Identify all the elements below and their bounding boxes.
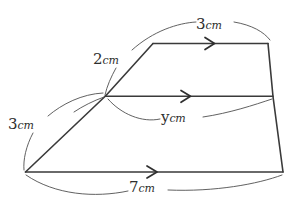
arc-middle-left bbox=[108, 99, 160, 120]
arc-left-slant-lower bbox=[24, 133, 33, 170]
arc-top-right bbox=[234, 22, 270, 40]
arc-middle-right bbox=[203, 99, 272, 117]
dimension-label-bottom-unit: cm bbox=[139, 182, 155, 195]
dimension-label-slant: 2cm bbox=[93, 51, 119, 67]
dimension-label-slant-value: 2 bbox=[93, 50, 103, 68]
dimension-label-left: 3cm bbox=[8, 116, 34, 132]
dimension-label-slant-unit: cm bbox=[103, 54, 119, 67]
dimension-label-top-value: 3 bbox=[196, 15, 206, 33]
dimension-label-middle: ycm bbox=[161, 109, 185, 125]
direction-arrowheads bbox=[147, 38, 215, 179]
arc-top-left bbox=[132, 22, 196, 50]
geometry-figure: 3cm 3cm 2cm ycm 7cm bbox=[0, 0, 306, 208]
dimension-label-top-unit: cm bbox=[206, 19, 222, 32]
dimension-label-left-value: 3 bbox=[8, 115, 18, 133]
dimension-label-top: 3cm bbox=[196, 16, 222, 32]
arc-left-slant-upper bbox=[48, 93, 103, 116]
dimension-label-bottom-value: 7 bbox=[129, 178, 139, 196]
dimension-label-left-unit: cm bbox=[18, 119, 34, 132]
dimension-label-bottom: 7cm bbox=[129, 179, 155, 195]
lower-left-slant-edge bbox=[26, 96, 106, 172]
arc-bottom-left bbox=[26, 175, 128, 194]
figure-drawing bbox=[0, 0, 306, 208]
right-edge bbox=[268, 44, 283, 173]
arc-vertex-flare bbox=[74, 97, 104, 112]
dimension-label-middle-unit: cm bbox=[169, 112, 185, 125]
arc-bottom-right bbox=[168, 175, 282, 190]
